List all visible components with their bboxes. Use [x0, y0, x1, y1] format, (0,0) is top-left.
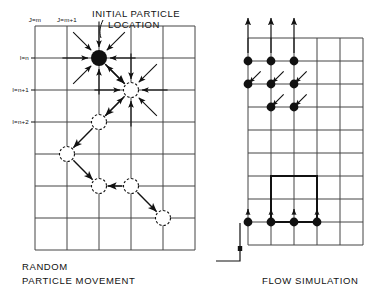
random-walk-arrow — [139, 64, 157, 82]
column-label: J=m+1 — [57, 16, 77, 23]
flow-particle-marker — [290, 80, 299, 89]
particle-node-marker — [124, 83, 139, 98]
left-caption-line-1: RANDOM — [22, 261, 68, 272]
flow-particle-marker — [290, 218, 299, 227]
flow-particles — [244, 57, 322, 227]
path-arrow — [73, 160, 92, 179]
path-arrow — [105, 96, 124, 115]
flow-particle-marker — [290, 103, 299, 112]
row-label: I=n — [20, 54, 30, 61]
bracket-corner-block — [238, 246, 242, 251]
left-axis-labels: J=mJ=m+1I=nI=n+1I=n+2 — [12, 16, 77, 125]
random-walk-arrow — [73, 32, 91, 50]
diagram-canvas: J=mJ=m+1I=nI=n+1I=n+2 INITIAL PARTICLE L… — [0, 0, 377, 300]
flow-particle-marker — [244, 80, 253, 89]
path-arrow — [73, 128, 92, 147]
random-walk-arrow — [73, 66, 91, 84]
random-walk-arrow — [139, 98, 157, 116]
flow-particle-marker — [313, 218, 322, 227]
random-walk-arrow — [107, 32, 125, 50]
particle-node-marker — [60, 147, 75, 162]
particle-node-marker — [92, 115, 107, 130]
left-grid — [35, 26, 195, 250]
left-particle-nodes — [60, 50, 171, 226]
corner-bracket — [216, 223, 242, 261]
figure-root: J=mJ=m+1I=nI=n+1I=n+2 INITIAL PARTICLE L… — [0, 0, 377, 300]
flow-particle-marker — [267, 80, 276, 89]
annotation-line-1: INITIAL PARTICLE — [92, 8, 180, 19]
flow-particle-marker — [244, 218, 253, 227]
particle-node-marker — [124, 179, 139, 194]
flow-particle-marker — [267, 103, 276, 112]
initial-particle-marker — [91, 50, 107, 66]
particle-node-marker — [92, 179, 107, 194]
row-label: I=n+2 — [12, 118, 29, 125]
particle-node-marker — [156, 211, 171, 226]
right-grid — [248, 18, 363, 245]
flow-particle-marker — [244, 57, 253, 66]
annotation-line-2: LOCATION — [108, 19, 160, 30]
initial-particle-annotation — [100, 20, 103, 38]
row-label: I=n+1 — [12, 86, 29, 93]
right-caption: FLOW SIMULATION — [262, 275, 358, 286]
left-caption-line-2: PARTICLE MOVEMENT — [22, 275, 135, 286]
path-arrow — [137, 192, 156, 211]
flow-vectors — [249, 71, 307, 106]
path-arrow — [105, 64, 124, 83]
column-label: J=m — [29, 16, 41, 23]
flow-particle-marker — [290, 57, 299, 66]
annotation-leader — [100, 20, 103, 38]
flow-particle-marker — [267, 57, 276, 66]
flow-particle-marker — [267, 218, 276, 227]
left-particle-path — [73, 64, 156, 211]
bracket-path — [216, 223, 240, 261]
